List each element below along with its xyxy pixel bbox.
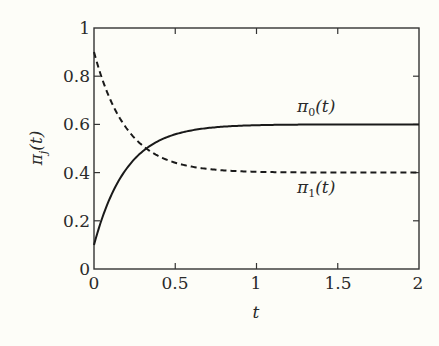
pi0-curve	[94, 124, 419, 244]
y-tick-label: 0.8	[63, 66, 90, 86]
pi0-argument: (t)	[315, 96, 335, 116]
pi1-label: π1(t)	[297, 177, 335, 200]
x-tick-label: 0	[89, 273, 100, 293]
y-axis-label: πj(t)	[26, 131, 49, 166]
y-axis-subscript: j	[37, 151, 50, 154]
y-tick-label: 0.6	[63, 114, 90, 134]
y-tick-label: 0.2	[63, 211, 90, 231]
x-tick-label: 2	[413, 273, 424, 293]
y-tick-label: 1	[79, 18, 90, 38]
y-tick-label: 0.4	[63, 163, 90, 183]
x-tick-label: 0.5	[161, 273, 188, 293]
pi1-symbol: π	[297, 177, 308, 197]
y-axis-argument: (t)	[26, 131, 46, 151]
x-tick-label: 1	[251, 273, 262, 293]
x-tick-label: 1.5	[324, 273, 351, 293]
y-ticks	[94, 76, 419, 221]
pi0-label: π0(t)	[297, 96, 335, 119]
x-ticks	[175, 28, 338, 269]
y-axis-symbol: π	[26, 154, 46, 165]
pi1-argument: (t)	[315, 177, 335, 197]
x-axis-label: t	[253, 302, 260, 322]
pi1-curve	[94, 52, 419, 172]
plot-frame	[94, 28, 419, 269]
pi0-symbol: π	[297, 96, 308, 116]
